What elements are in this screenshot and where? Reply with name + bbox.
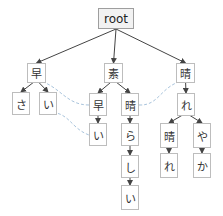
tree-edge <box>114 29 117 63</box>
trie-node: 晴 <box>160 123 178 148</box>
trie-node: 素 <box>104 63 123 83</box>
trie-node: か <box>193 153 211 178</box>
root-node: root <box>98 8 134 29</box>
trie-node: 晴 <box>176 63 195 83</box>
trie-node: い <box>39 92 57 115</box>
trie-node: れ <box>160 153 178 178</box>
suffix-link <box>48 112 89 135</box>
trie-node: さ <box>12 92 30 115</box>
trie-node: し <box>121 155 139 178</box>
trie-node: ら <box>121 123 139 146</box>
trie-node: い <box>121 185 139 210</box>
trie-node: 早 <box>89 93 107 116</box>
trie-node: 早 <box>27 63 46 83</box>
tree-edge <box>37 29 117 63</box>
trie-node: や <box>193 123 211 148</box>
trie-node: れ <box>177 93 195 116</box>
trie-diagram: root早素晴さい早晴れいら晴やしれかい <box>0 0 223 216</box>
trie-node: 晴 <box>121 93 139 116</box>
tree-edge <box>116 29 186 63</box>
trie-node: い <box>89 123 107 146</box>
